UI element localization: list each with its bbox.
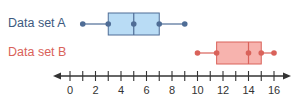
- tick-label: 14: [242, 84, 254, 96]
- data-point-dot: [214, 50, 220, 56]
- data-point-dot: [258, 50, 264, 56]
- data-point-dot: [271, 50, 277, 56]
- data-point-dot: [182, 21, 188, 27]
- right-arrow-icon: [283, 73, 291, 80]
- box-plot-data-set-b: [195, 42, 277, 64]
- tick-label: 6: [143, 84, 149, 96]
- box-plots: [80, 13, 277, 64]
- data-point-dot: [195, 50, 201, 56]
- tick-label: 12: [217, 84, 229, 96]
- number-line-axis: 0246810121416: [53, 71, 291, 96]
- tick-label: 4: [118, 84, 124, 96]
- tick-label: 8: [169, 84, 175, 96]
- tick-label: 0: [67, 84, 73, 96]
- data-point-dot: [80, 21, 86, 27]
- tick-label: 10: [191, 84, 203, 96]
- box-plot-chart: 0246810121416: [0, 0, 304, 106]
- left-arrow-icon: [53, 73, 61, 80]
- data-point-dot: [156, 21, 162, 27]
- tick-label: 2: [92, 84, 98, 96]
- data-point-dot: [105, 21, 111, 27]
- box-plot-data-set-a: [80, 13, 188, 35]
- tick-label: 16: [268, 84, 280, 96]
- data-point-dot: [246, 50, 252, 56]
- iqr-box: [217, 42, 262, 64]
- data-point-dot: [131, 21, 137, 27]
